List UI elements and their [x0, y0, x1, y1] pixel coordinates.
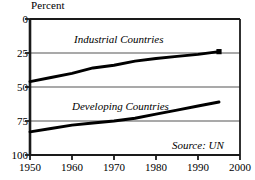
percent-line-chart: Percent 1007550250 195019601970198019902…	[0, 0, 255, 180]
series-label-developing-countries: Developing Countries	[72, 100, 169, 112]
series-end-marker-0	[216, 49, 221, 54]
source-annotation: Source: UN	[172, 139, 224, 151]
plot-area	[0, 0, 255, 180]
series-label-industrial-countries: Industrial Countries	[74, 33, 164, 45]
